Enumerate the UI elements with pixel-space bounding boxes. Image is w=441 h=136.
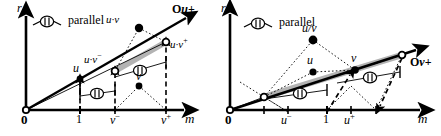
xtick-label-1: 1	[76, 113, 82, 125]
xtick-sup-vplus: +	[166, 111, 171, 121]
point-uv	[135, 24, 143, 32]
xtick-label-1: 1	[323, 113, 329, 125]
point-u-over-v	[309, 36, 318, 45]
point-label-v: v	[351, 52, 356, 64]
legend-label-parallel: parallel	[68, 14, 104, 26]
axis-label-r: r	[17, 2, 22, 14]
point-v	[136, 83, 143, 90]
dotted-v-right	[139, 86, 166, 110]
point-label-u-over-v: u/v	[302, 22, 317, 34]
point-u	[309, 68, 316, 75]
axis-origin-label: 0	[21, 113, 28, 126]
axis-label-m: m	[185, 112, 194, 125]
parallel-mark-icon	[91, 88, 104, 98]
legend-parallel-icon	[244, 18, 272, 29]
dotted-v-left	[115, 86, 139, 110]
axis-label-r: r	[221, 2, 226, 14]
dotted-cross-3	[327, 86, 351, 110]
figure-root: r m 0 parallel Ou+ 1 v− v+ u v u·v u·v− …	[0, 0, 441, 136]
ray-label-prefix: O	[410, 55, 419, 69]
right-panel-canvas	[220, 0, 441, 136]
axis-label-m: m	[418, 112, 427, 125]
dotted-uv-right	[313, 40, 355, 70]
point-label-uv: u·v	[106, 14, 119, 25]
point-label-uv-minus: u·v	[84, 53, 97, 65]
point-label-v: v	[136, 70, 141, 82]
ray-label-suffix: +	[188, 2, 195, 16]
point-label-uv-plus: u·v	[170, 38, 183, 50]
xtick-sup-uminus: −	[287, 111, 292, 121]
parallel-mark-icon	[293, 88, 306, 99]
point-uv-plus	[163, 39, 170, 46]
point-upper-ray	[399, 52, 406, 59]
point-label-u: u	[307, 54, 313, 66]
quotient-construction-panel: r m 0 parallel Ov+ u− 1 u+ u v u/v	[220, 0, 441, 136]
legend-parallel-icon	[33, 16, 61, 27]
xtick-sup-vminus: −	[115, 111, 120, 121]
point-lower-ray	[261, 94, 268, 101]
parallel-mark-icon	[363, 72, 376, 83]
point-label-u: u	[73, 62, 79, 74]
dotted-uv-right	[139, 28, 166, 42]
ray-label-suffix: +	[425, 55, 432, 69]
auxiliary-ray	[230, 97, 264, 110]
point-v	[351, 66, 359, 74]
dotted-cross-4	[351, 86, 376, 110]
point-u	[77, 76, 84, 83]
ray-label-prefix: O	[172, 2, 181, 16]
ray-ou-plus	[26, 18, 186, 110]
dashed-arrow-down	[380, 58, 402, 106]
axis-origin-label: 0	[225, 113, 232, 126]
point-sup-uv-minus: −	[97, 51, 101, 60]
xtick-sup-uplus: +	[350, 111, 355, 121]
point-sup-uv-plus: +	[183, 36, 187, 45]
product-construction-panel: r m 0 parallel Ou+ 1 v− v+ u v u·v u·v− …	[0, 0, 220, 136]
point-uv-minus	[112, 68, 119, 75]
